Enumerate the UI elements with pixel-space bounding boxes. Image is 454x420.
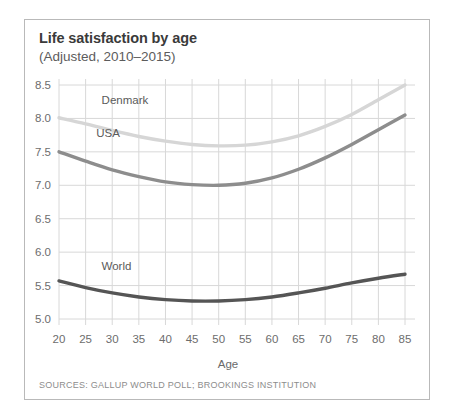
y-tick-label: 8.5 bbox=[35, 79, 51, 91]
line-chart-svg: 5.05.56.06.57.07.58.08.52025303540455055… bbox=[25, 20, 431, 401]
x-tick-label: 80 bbox=[372, 333, 385, 345]
y-tick-label: 8.0 bbox=[35, 112, 51, 124]
y-tick-label: 7.0 bbox=[35, 179, 51, 191]
series-line-usa bbox=[59, 115, 405, 185]
y-tick-label: 7.5 bbox=[35, 146, 51, 158]
plot-area: 5.05.56.06.57.07.58.08.52025303540455055… bbox=[25, 20, 431, 401]
series-label-usa: USA bbox=[96, 127, 120, 139]
x-tick-label: 30 bbox=[106, 333, 119, 345]
x-tick-label: 20 bbox=[53, 333, 66, 345]
x-tick-label: 40 bbox=[159, 333, 172, 345]
y-tick-label: 6.0 bbox=[35, 246, 51, 258]
y-tick-label: 6.5 bbox=[35, 213, 51, 225]
x-tick-label: 55 bbox=[239, 333, 252, 345]
y-tick-label: 5.5 bbox=[35, 280, 51, 292]
x-axis-label: Age bbox=[25, 358, 431, 370]
sources-note: SOURCES: GALLUP WORLD POLL; BROOKINGS IN… bbox=[39, 380, 316, 390]
x-tick-label: 75 bbox=[345, 333, 358, 345]
x-tick-label: 60 bbox=[266, 333, 279, 345]
series-line-world bbox=[59, 274, 405, 301]
y-tick-label: 5.0 bbox=[35, 313, 51, 325]
x-tick-label: 85 bbox=[399, 333, 412, 345]
series-label-world: World bbox=[102, 260, 132, 272]
series-label-denmark: Denmark bbox=[102, 94, 149, 106]
chart-card: Life satisfaction by age (Adjusted, 2010… bbox=[24, 19, 430, 400]
x-tick-label: 45 bbox=[186, 333, 199, 345]
x-tick-label: 50 bbox=[212, 333, 225, 345]
x-tick-label: 35 bbox=[132, 333, 145, 345]
x-tick-label: 65 bbox=[292, 333, 305, 345]
x-tick-label: 70 bbox=[319, 333, 332, 345]
x-tick-label: 25 bbox=[79, 333, 92, 345]
